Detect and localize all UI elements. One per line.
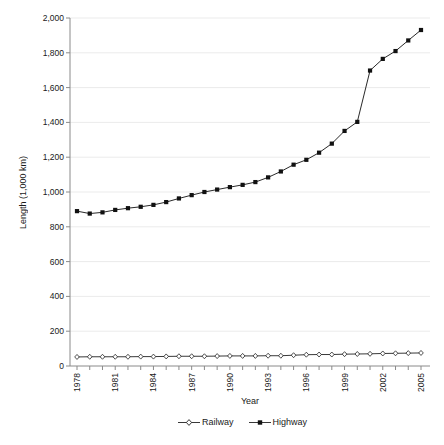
highway-point: [304, 158, 308, 162]
highway-point: [126, 206, 130, 210]
railway-point: [291, 353, 296, 358]
railway-point: [304, 352, 309, 357]
railway-point: [368, 351, 373, 356]
highway-point: [406, 38, 410, 42]
y-tick-label: 800: [50, 222, 64, 232]
railway-point: [189, 354, 194, 359]
railway-point: [266, 353, 271, 358]
highway-point: [202, 190, 206, 194]
y-axis-title: Length (1,000 km): [16, 17, 30, 367]
legend-label-railway: Railway: [202, 417, 234, 427]
railway-point: [126, 354, 131, 359]
railway-point: [317, 352, 322, 357]
highway-marker-icon: [248, 418, 272, 427]
railway-point: [87, 354, 92, 359]
highway-point: [75, 209, 79, 213]
x-tick-label: 1999: [340, 373, 350, 392]
highway-point: [177, 196, 181, 200]
chart-canvas: 02004006008001,0001,2001,4001,6001,8002,…: [0, 0, 444, 445]
y-tick-label: 1,600: [43, 83, 65, 93]
chart-figure: 02004006008001,0001,2001,4001,6001,8002,…: [0, 0, 444, 445]
highway-point: [419, 28, 423, 32]
highway-point: [241, 183, 245, 187]
railway-point: [113, 354, 118, 359]
highway-point: [266, 175, 270, 179]
railway-point: [342, 352, 347, 357]
highway-point: [215, 187, 219, 191]
highway-point: [393, 49, 397, 53]
highway-point: [228, 185, 232, 189]
y-tick-label: 200: [50, 326, 64, 336]
highway-point: [164, 200, 168, 204]
highway-point: [190, 193, 194, 197]
railway-point: [202, 354, 207, 359]
highway-point: [88, 211, 92, 215]
railway-point: [100, 354, 105, 359]
railway-point: [419, 350, 424, 355]
x-tick-label: 1981: [110, 373, 120, 392]
x-tick-label: 2005: [416, 373, 426, 392]
highway-point: [139, 205, 143, 209]
railway-point: [151, 354, 156, 359]
x-tick-label: 1978: [72, 373, 82, 392]
railway-point: [355, 351, 360, 356]
x-tick-label: 1993: [263, 373, 273, 392]
x-tick-label: 2002: [378, 373, 388, 392]
highway-point: [368, 68, 372, 72]
highway-series-line: [77, 30, 421, 214]
railway-point: [75, 354, 80, 359]
highway-point: [151, 203, 155, 207]
x-tick-label: 1996: [301, 373, 311, 392]
y-tick-label: 600: [50, 257, 64, 267]
railway-point: [253, 353, 258, 358]
highway-point: [317, 151, 321, 155]
highway-point: [253, 180, 257, 184]
highway-point: [100, 210, 104, 214]
y-tick-label: 1,200: [43, 152, 65, 162]
y-tick-label: 1,800: [43, 48, 65, 58]
x-axis-title: Year: [70, 396, 430, 406]
y-tick-label: 400: [50, 291, 64, 301]
railway-point: [228, 353, 233, 358]
highway-point: [342, 129, 346, 133]
highway-point: [330, 142, 334, 146]
y-tick-label: 2,000: [43, 13, 65, 23]
legend-item-railway: Railway: [177, 417, 234, 427]
railway-point: [380, 351, 385, 356]
x-tick-label: 1984: [148, 373, 158, 392]
legend: Railway Highway: [40, 414, 444, 430]
highway-point: [113, 208, 117, 212]
highway-point: [291, 163, 295, 167]
y-tick-label: 1,400: [43, 117, 65, 127]
railway-point: [279, 353, 284, 358]
highway-point: [381, 57, 385, 61]
legend-label-highway: Highway: [273, 417, 308, 427]
y-tick-label: 0: [59, 361, 64, 371]
railway-point: [215, 354, 220, 359]
railway-point: [177, 354, 182, 359]
x-tick-label: 1987: [187, 373, 197, 392]
railway-marker-icon: [177, 418, 201, 427]
legend-item-highway: Highway: [248, 417, 308, 427]
highway-point: [279, 169, 283, 173]
railway-point: [393, 351, 398, 356]
railway-point: [406, 351, 411, 356]
railway-point: [240, 353, 245, 358]
y-tick-label: 1,000: [43, 187, 65, 197]
x-tick-label: 1990: [225, 373, 235, 392]
railway-point: [164, 354, 169, 359]
railway-point: [330, 352, 335, 357]
railway-point: [138, 354, 143, 359]
highway-point: [355, 120, 359, 124]
